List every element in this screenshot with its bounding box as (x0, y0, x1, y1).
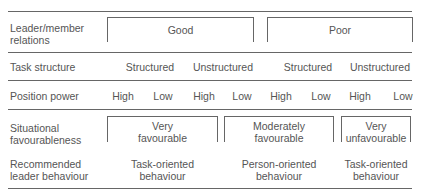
power-2: Low (148, 90, 178, 102)
power-8: Low (388, 90, 418, 102)
row-label-task-structure: Task structure (10, 61, 75, 73)
label-line: Recommended (10, 158, 88, 170)
row-label-position-power: Position power (10, 90, 79, 102)
divider-after-relations (8, 52, 412, 53)
task-structure-1: Structured (110, 61, 190, 73)
text-line: unfavourable (335, 132, 417, 144)
power-3: High (189, 90, 219, 102)
divider-after-position-power (8, 109, 412, 110)
label-line: leader behaviour (10, 170, 88, 182)
behaviour-task-oriented-2: Task-oriented behaviour (335, 158, 417, 182)
power-1: High (108, 90, 138, 102)
power-6: Low (306, 90, 336, 102)
text-line: behaviour (335, 170, 417, 182)
power-5: High (266, 90, 296, 102)
text-line: Person-oriented (224, 158, 334, 170)
text-line: favourable (107, 132, 218, 144)
task-structure-4: Unstructured (340, 61, 420, 73)
row-label-behaviour: Recommended leader behaviour (10, 158, 88, 182)
label-line: Situational (10, 122, 81, 134)
divider-top (8, 11, 412, 12)
behaviour-person-oriented: Person-oriented behaviour (224, 158, 334, 182)
group-good: Good (107, 24, 254, 36)
task-structure-3: Structured (268, 61, 348, 73)
text-line: behaviour (224, 170, 334, 182)
divider-bottom (8, 188, 412, 189)
power-7: High (345, 90, 375, 102)
text-line: behaviour (107, 170, 218, 182)
label-line: favourableness (10, 134, 81, 146)
task-structure-2: Unstructured (183, 61, 263, 73)
text-line: favourable (224, 132, 334, 144)
divider-after-task-structure (8, 80, 412, 81)
row-label-relations: Leader/member relations (10, 22, 84, 46)
favourableness-moderately-favourable: Moderately favourable (224, 120, 334, 144)
favourableness-very-unfavourable: Very unfavourable (335, 120, 417, 144)
favourableness-very-favourable: Very favourable (107, 120, 218, 144)
power-4: Low (227, 90, 257, 102)
group-poor: Poor (267, 24, 413, 36)
text-line: Very (335, 120, 417, 132)
label-line: relations (10, 34, 84, 46)
text-line: Task-oriented (335, 158, 417, 170)
text-line: Moderately (224, 120, 334, 132)
text-line: Very (107, 120, 218, 132)
behaviour-task-oriented-1: Task-oriented behaviour (107, 158, 218, 182)
text-line: Task-oriented (107, 158, 218, 170)
row-label-favourableness: Situational favourableness (10, 122, 81, 146)
label-line: Leader/member (10, 22, 84, 34)
